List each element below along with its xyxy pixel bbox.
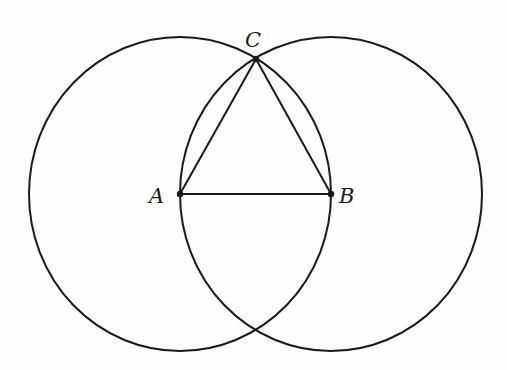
label-c: C <box>245 28 261 52</box>
segment-ac <box>180 59 256 194</box>
point-a <box>177 191 183 197</box>
diagram-canvas: A B C <box>0 0 507 370</box>
euclid-construction: A B C <box>0 0 507 370</box>
point-b <box>328 191 334 197</box>
segment-bc <box>256 59 331 194</box>
label-a: A <box>147 184 164 208</box>
label-b: B <box>338 184 354 208</box>
point-c <box>253 56 259 62</box>
